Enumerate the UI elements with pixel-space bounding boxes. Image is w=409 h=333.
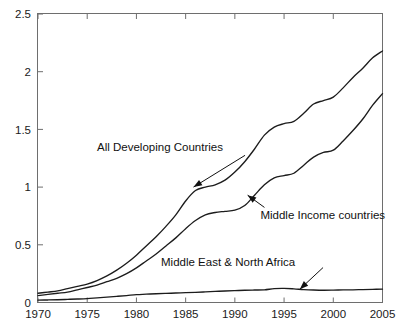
- x-tick-label: 1985: [173, 308, 199, 320]
- chart-container: 00.511.522.5 197019751980198519901995200…: [0, 0, 409, 333]
- x-tick-label: 1970: [25, 308, 51, 320]
- x-tick-label: 2000: [320, 308, 346, 320]
- x-tick-label: 2005: [370, 308, 396, 320]
- series-label-2: Middle East & North Africa: [161, 256, 296, 268]
- x-tick-label: 1990: [222, 308, 248, 320]
- y-tick-label: 2.5: [15, 8, 31, 20]
- y-tick-label: 1: [25, 181, 31, 193]
- series-label-0: All Developing Countries: [97, 141, 223, 153]
- chart-background: [0, 0, 409, 333]
- y-tick-label: 0.5: [15, 239, 31, 251]
- series-label-1: Middle Income countries: [260, 209, 385, 221]
- line-chart: 00.511.522.5 197019751980198519901995200…: [0, 0, 409, 333]
- x-tick-label: 1975: [74, 308, 100, 320]
- x-tick-label: 1980: [124, 308, 150, 320]
- y-tick-label: 1.5: [15, 124, 31, 136]
- y-tick-label: 2: [25, 66, 31, 78]
- x-tick-label: 1995: [271, 308, 297, 320]
